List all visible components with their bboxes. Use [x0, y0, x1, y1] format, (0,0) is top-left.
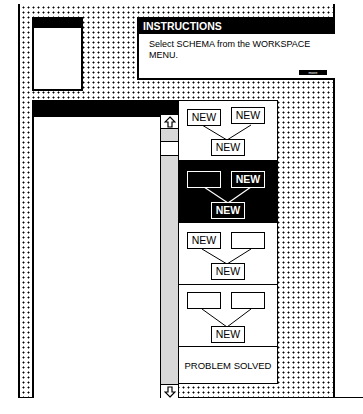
problem-solved-item[interactable]: PROBLEM SOLVED [179, 347, 277, 384]
main-window [32, 100, 179, 398]
schema-node-top-right: NEW [231, 171, 265, 188]
schema-node-top-left: NEW [187, 232, 221, 249]
schema-node-top-right [231, 292, 265, 309]
schema-node-bottom: NEW [211, 139, 245, 156]
down-arrow-icon [164, 386, 176, 398]
schema-item-2-selected[interactable]: NEW NEW [179, 161, 277, 223]
small-window-titlebar[interactable] [34, 19, 81, 28]
schema-node-top-left [187, 292, 221, 309]
scroll-up-button[interactable] [161, 115, 178, 129]
scroll-thumb[interactable] [161, 141, 178, 156]
vertical-scrollbar[interactable] [160, 115, 178, 398]
instructions-window: INSTRUCTIONS Select SCHEMA from the WORK… [137, 17, 335, 80]
schema-node-top-left: NEW [187, 109, 221, 126]
schema-node-bottom: NEW [211, 326, 245, 343]
schema-node-top-left [187, 171, 221, 188]
up-arrow-icon [164, 116, 176, 128]
scroll-down-button[interactable] [161, 384, 178, 398]
main-window-titlebar[interactable] [34, 102, 177, 117]
schema-node-top-right [231, 232, 265, 249]
instructions-title[interactable]: INSTRUCTIONS [139, 19, 335, 34]
schema-palette: NEW NEW NEW NEW NEW NEW NEW NEW PROBLEM … [178, 100, 278, 384]
schema-node-bottom: NEW [211, 202, 245, 219]
small-window[interactable] [32, 17, 83, 91]
schema-node-top-right: NEW [231, 107, 265, 124]
schema-item-4[interactable]: NEW [179, 285, 277, 347]
schema-item-3[interactable]: NEW NEW [179, 223, 277, 285]
schema-node-bottom: NEW [211, 263, 245, 280]
instructions-text: Select SCHEMA from the WORKSPACE MENU. [139, 34, 335, 61]
more-button[interactable]: more [299, 70, 327, 75]
schema-item-1[interactable]: NEW NEW NEW [179, 101, 277, 161]
